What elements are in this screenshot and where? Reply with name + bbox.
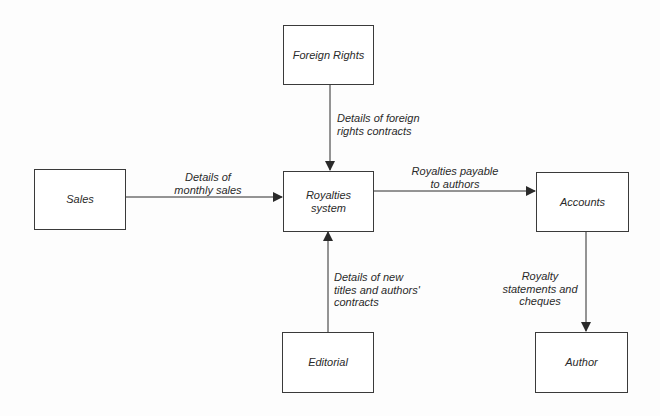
node-editorial-label: Editorial (308, 356, 348, 369)
node-accounts: Accounts (536, 172, 629, 232)
node-foreign-rights-label: Foreign Rights (293, 49, 365, 62)
edge-label-royalty-statements: Royalty statements and cheques (500, 270, 580, 308)
node-royalties-system-label: Royalties system (306, 189, 351, 215)
node-royalties-system: Royalties system (283, 171, 374, 232)
edge-label-foreign-rights: Details of foreign rights contracts (337, 112, 420, 137)
edge-label-monthly-sales: Details of monthly sales (160, 171, 256, 196)
diagram-canvas: Foreign Rights Sales Royalties system Ac… (0, 0, 660, 416)
node-sales: Sales (34, 169, 126, 230)
node-author: Author (535, 332, 628, 393)
node-author-label: Author (565, 356, 597, 369)
node-sales-label: Sales (66, 193, 94, 206)
node-foreign-rights: Foreign Rights (283, 25, 374, 85)
node-accounts-label: Accounts (560, 196, 605, 209)
node-editorial: Editorial (282, 332, 374, 393)
edge-label-royalties-payable: Royalties payable to authors (400, 165, 510, 190)
edge-label-new-titles: Details of new titles and authors' contr… (334, 271, 420, 309)
